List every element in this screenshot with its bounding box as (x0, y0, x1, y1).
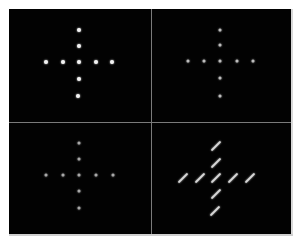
horizontal-divider (9, 122, 292, 123)
dot-point (219, 29, 222, 32)
dot-point (94, 60, 98, 64)
dot-point (76, 94, 80, 98)
dot-point (77, 28, 81, 32)
dot-point (219, 95, 222, 98)
dot-point (78, 190, 81, 193)
dot-point (77, 60, 81, 64)
dot-point (77, 77, 81, 81)
dot-point (61, 60, 65, 64)
dot-point (44, 60, 48, 64)
frame-edge-right (291, 9, 293, 235)
frame-edge-bottom (9, 234, 293, 236)
dot-point (252, 60, 255, 63)
dot-point (110, 60, 114, 64)
dot-point (62, 174, 65, 177)
dot-point (219, 77, 222, 80)
dot-point (95, 174, 98, 177)
dot-point (236, 60, 239, 63)
dot-point (77, 44, 81, 48)
dot-point (78, 142, 81, 145)
dot-point (219, 60, 222, 63)
dot-point (78, 207, 81, 210)
dot-point (187, 60, 190, 63)
dot-point (45, 174, 48, 177)
dot-point (203, 60, 206, 63)
dot-point (78, 158, 81, 161)
dot-point (112, 174, 115, 177)
dot-point (78, 174, 81, 177)
dot-point (219, 44, 222, 47)
image-frame (9, 9, 292, 235)
